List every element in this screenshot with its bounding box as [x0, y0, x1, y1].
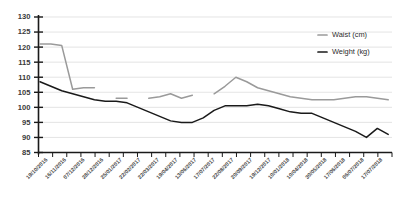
chart-legend: Waist (cm)Weight (kg)	[318, 30, 370, 56]
y-axis-tick-label: 85	[22, 148, 31, 157]
y-axis-tick-label: 120	[18, 43, 31, 52]
series-path	[214, 77, 388, 100]
line-chart: 859095100105110115120125130 19/10/201616…	[0, 0, 404, 211]
y-axis-tick-label: 130	[18, 12, 31, 21]
y-axis-tick-label: 110	[18, 73, 30, 82]
y-axis-tick-label: 125	[18, 27, 31, 36]
series-weight-line	[40, 82, 388, 138]
series-path	[149, 94, 193, 99]
series-path	[40, 82, 388, 138]
series-path	[40, 44, 94, 89]
x-axis-labels: 19/10/201616/11/201607/12/201628/12/2016…	[25, 156, 384, 180]
y-axis-tick-label: 115	[18, 58, 31, 67]
y-axis-tick-label: 95	[22, 118, 31, 127]
y-axis-labels: 859095100105110115120125130	[18, 12, 31, 157]
y-axis-tick-label: 105	[18, 88, 31, 97]
legend-label: Weight (kg)	[332, 47, 370, 56]
y-axis-tick-label: 90	[22, 133, 30, 142]
chart-canvas: 859095100105110115120125130 19/10/201616…	[0, 0, 404, 211]
legend-label: Waist (cm)	[332, 30, 367, 39]
y-axis-tick-label: 100	[18, 103, 31, 112]
